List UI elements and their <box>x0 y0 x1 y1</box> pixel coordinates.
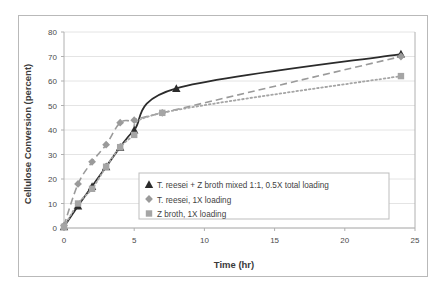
data-point-2-7 <box>398 73 404 79</box>
data-point-2-6 <box>159 110 165 116</box>
data-point-2-5 <box>131 132 137 138</box>
y-tick-label: 10 <box>48 200 57 209</box>
cellulose-conversion-chart: 01020304050607080 0510152025 Time (hr) C… <box>19 16 427 276</box>
data-point-2-0 <box>61 224 67 230</box>
y-axis-title: Cellulose Conversion (percent) <box>22 64 33 204</box>
legend-label-0: T. reesei + Z broth mixed 1:1, 0.5X tota… <box>157 181 329 190</box>
y-tick-label: 30 <box>48 151 57 160</box>
x-axis-title: Time (hr) <box>214 259 254 270</box>
y-tick-label: 50 <box>48 102 57 111</box>
data-point-2-1 <box>75 200 81 206</box>
x-tick-label: 5 <box>132 236 137 245</box>
y-tick-label: 40 <box>48 126 57 135</box>
x-tick-label: 20 <box>340 236 349 245</box>
y-tick-label: 80 <box>48 28 57 37</box>
data-point-2-2 <box>89 186 95 192</box>
chart-figure: 01020304050607080 0510152025 Time (hr) C… <box>18 15 428 277</box>
legend-label-2: Z broth, 1X loading <box>157 210 227 219</box>
x-tick-label: 0 <box>62 236 67 245</box>
y-tick-labels: 01020304050607080 <box>48 28 57 233</box>
chart-legend: T. reesei + Z broth mixed 1:1, 0.5X tota… <box>139 173 389 219</box>
legend-marker-2 <box>146 210 152 216</box>
y-tick-label: 70 <box>48 53 57 62</box>
x-tick-label: 15 <box>270 236 279 245</box>
y-tick-label: 20 <box>48 175 57 184</box>
plot-background <box>19 16 427 276</box>
x-tick-label: 10 <box>200 236 209 245</box>
data-point-2-3 <box>103 164 109 170</box>
legend-label-1: T. reesei, 1X loading <box>157 196 232 205</box>
y-tick-label: 0 <box>53 224 58 233</box>
data-point-2-4 <box>117 144 123 150</box>
x-tick-label: 25 <box>411 236 420 245</box>
y-tick-label: 60 <box>48 77 57 86</box>
